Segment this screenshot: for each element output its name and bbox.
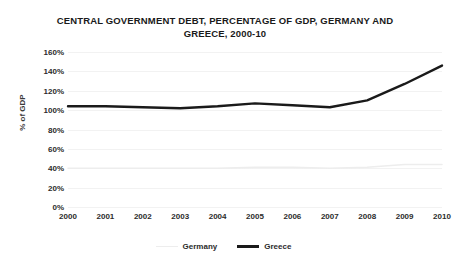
chart-legend: GermanyGreece bbox=[0, 242, 447, 251]
x-axis-tick-label: 2000 bbox=[48, 212, 88, 221]
x-axis-tick-label: 2008 bbox=[347, 212, 387, 221]
legend-label-greece: Greece bbox=[264, 242, 291, 251]
legend-swatch-greece bbox=[237, 245, 259, 248]
y-axis-tick-label: 20% bbox=[20, 183, 64, 192]
x-axis-tick-label: 2002 bbox=[123, 212, 163, 221]
x-axis-tick-label: 2006 bbox=[272, 212, 312, 221]
chart-title-line-2: GREECE, 2000-10 bbox=[184, 28, 267, 39]
y-axis-tick-label: 160% bbox=[20, 48, 64, 57]
y-axis-tick-label: 140% bbox=[20, 67, 64, 76]
x-axis-tick-label: 2001 bbox=[85, 212, 125, 221]
y-axis-tick-label: 120% bbox=[20, 86, 64, 95]
y-axis-tick-labels: 160%140%120%100%80%60%40%20%0% bbox=[16, 52, 64, 207]
legend-swatch-germany bbox=[156, 246, 178, 248]
x-axis-tick-label: 2009 bbox=[385, 212, 425, 221]
plot-area bbox=[68, 52, 442, 207]
gridline bbox=[68, 207, 442, 208]
chart-title: CENTRAL GOVERNMENT DEBT, PERCENTAGE OF G… bbox=[40, 14, 410, 40]
series-lines bbox=[68, 52, 442, 207]
series-line-germany bbox=[68, 164, 442, 168]
x-axis-tick-label: 2005 bbox=[235, 212, 275, 221]
x-axis-tick-label: 2007 bbox=[310, 212, 350, 221]
legend-item-greece[interactable]: Greece bbox=[237, 242, 291, 251]
y-axis-tick-label: 100% bbox=[20, 106, 64, 115]
x-axis-tick-label: 2004 bbox=[198, 212, 238, 221]
y-axis-tick-label: 80% bbox=[20, 125, 64, 134]
x-axis-tick-labels: 2000200120022003200420052006200720082009… bbox=[68, 212, 442, 226]
legend-item-germany[interactable]: Germany bbox=[156, 242, 218, 251]
series-line-greece bbox=[68, 66, 442, 109]
legend-label-germany: Germany bbox=[183, 242, 218, 251]
chart-title-line-1: CENTRAL GOVERNMENT DEBT, PERCENTAGE OF G… bbox=[57, 15, 394, 26]
x-axis-tick-label: 2010 bbox=[422, 212, 456, 221]
x-axis-tick-label: 2003 bbox=[160, 212, 200, 221]
y-axis-tick-label: 40% bbox=[20, 164, 64, 173]
y-axis-tick-label: 0% bbox=[20, 203, 64, 212]
y-axis-tick-label: 60% bbox=[20, 144, 64, 153]
